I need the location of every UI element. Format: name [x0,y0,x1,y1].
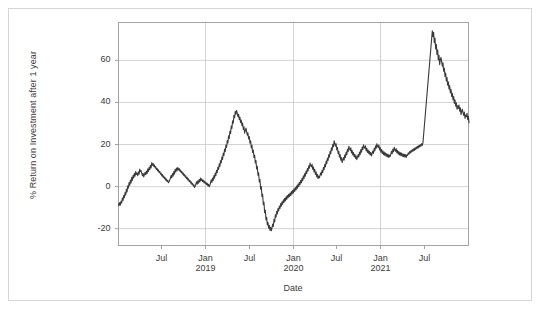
y-tick-label: 60 [79,54,111,64]
y-tick-label: 40 [79,96,111,106]
y-tick-label: -20 [79,223,111,233]
x-tick-month: Jul [395,253,455,263]
x-tick-year: 2019 [176,263,236,273]
x-tick-label: Jul [395,253,455,263]
x-tick-year: 2020 [264,263,324,273]
chart-figure: % Return on Investment after 1 year Date… [0,0,542,310]
x-tick-year: 2021 [351,263,411,273]
y-tick-label: 0 [79,181,111,191]
y-tick-label: 20 [79,139,111,149]
